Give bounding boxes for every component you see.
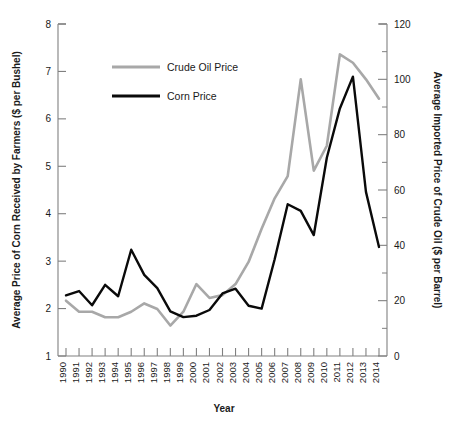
- x-tick-label: 2007: [279, 362, 290, 383]
- x-axis-ticks: 1990199119921993199419951996199719981999…: [57, 348, 381, 383]
- x-tick-label: 2013: [357, 362, 368, 383]
- y-right-tick-label: 40: [394, 240, 406, 251]
- y-left-tick-label: 6: [45, 113, 51, 124]
- x-tick-label: 1998: [161, 362, 172, 383]
- y-axis-left-ticks: 12345678: [45, 19, 66, 362]
- y-right-tick-label: 80: [394, 129, 406, 140]
- x-tick-label: 2002: [214, 362, 225, 383]
- dual-axis-line-chart: 12345678 020406080100120 199019911992199…: [0, 0, 450, 430]
- y-right-tick-label: 20: [394, 295, 406, 306]
- x-tick-label: 2006: [266, 362, 277, 383]
- x-tick-label: 2001: [200, 362, 211, 383]
- x-tick-label: 2012: [344, 362, 355, 383]
- x-tick-label: 1992: [83, 362, 94, 383]
- x-tick-label: 2014: [370, 362, 381, 383]
- x-tick-label: 2005: [253, 362, 264, 383]
- x-tick-label: 1990: [57, 362, 68, 383]
- x-tick-label: 1995: [122, 362, 133, 383]
- x-tick-label: 2010: [318, 362, 329, 383]
- x-tick-label: 2004: [240, 362, 251, 383]
- x-tick-label: 2009: [305, 362, 316, 383]
- y-left-tick-label: 7: [45, 66, 51, 77]
- x-tick-label: 1993: [96, 362, 107, 383]
- y-left-tick-label: 8: [45, 19, 51, 30]
- y-left-tick-label: 4: [45, 208, 51, 219]
- y-left-tick-label: 1: [45, 351, 51, 362]
- x-tick-label: 2008: [292, 362, 303, 383]
- y-right-tick-label: 60: [394, 185, 406, 196]
- y-left-tick-label: 5: [45, 161, 51, 172]
- x-tick-label: 1994: [109, 362, 120, 383]
- y-axis-right-ticks: 020406080100120: [378, 19, 411, 362]
- x-axis-title: Year: [213, 403, 234, 414]
- y-left-tick-label: 3: [45, 256, 51, 267]
- x-tick-label: 1991: [70, 362, 81, 383]
- y-right-tick-label: 100: [394, 74, 411, 85]
- y-right-tick-label: 120: [394, 19, 411, 30]
- y-axis-left-title: Average Price of Corn Received by Farmer…: [11, 51, 22, 329]
- x-tick-label: 1999: [174, 362, 185, 383]
- legend-label-crude-oil-price: Crude Oil Price: [167, 61, 238, 73]
- legend: Crude Oil Price Corn Price: [112, 61, 238, 102]
- x-tick-label: 2000: [187, 362, 198, 383]
- y-axis-right-title: Average Imported Price of Crude Oil ($ p…: [432, 72, 443, 309]
- x-tick-label: 2003: [227, 362, 238, 383]
- x-tick-label: 1996: [135, 362, 146, 383]
- y-left-tick-label: 2: [45, 303, 51, 314]
- x-tick-label: 1997: [148, 362, 159, 383]
- legend-label-corn-price: Corn Price: [167, 90, 217, 102]
- x-tick-label: 2011: [331, 362, 342, 382]
- y-right-tick-label: 0: [394, 351, 400, 362]
